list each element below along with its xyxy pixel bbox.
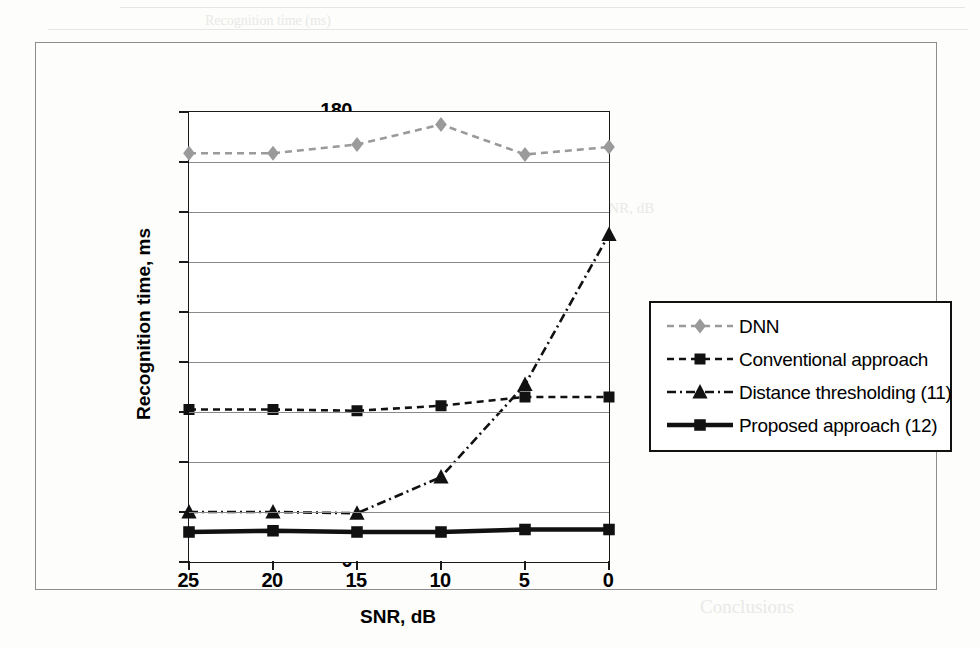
y-tick-mark (179, 311, 188, 313)
square-marker (695, 354, 706, 365)
diamond-marker (183, 146, 195, 161)
gridline (189, 412, 609, 413)
legend-marker-sample (663, 314, 737, 338)
diamond-marker (694, 319, 706, 334)
gridline (189, 512, 609, 513)
legend-label: Distance thresholding (11) (739, 383, 952, 402)
square-marker (184, 404, 195, 415)
x-tick-mark (608, 561, 610, 570)
square-marker (268, 404, 279, 415)
square-marker (604, 392, 615, 403)
y-tick-mark (179, 561, 188, 563)
gridline (189, 312, 609, 313)
bleed-rule-top (120, 7, 965, 8)
diamond-marker (267, 146, 279, 161)
square-icon (663, 347, 737, 371)
series-layer (189, 112, 609, 562)
x-tick-label: 20 (242, 570, 302, 590)
y-tick-mark (179, 361, 188, 363)
x-tick-label: 5 (494, 570, 554, 590)
square-marker (351, 526, 363, 538)
gridline (189, 262, 609, 263)
y-tick-mark (179, 461, 188, 463)
figure-frame: Recognition time, ms 0204060801001201401… (35, 42, 937, 590)
square-icon (663, 413, 737, 437)
y-tick-mark (179, 111, 188, 113)
series-3 (181, 227, 616, 520)
legend-marker-sample (663, 380, 737, 404)
square-marker (603, 524, 615, 536)
square-marker (267, 525, 279, 537)
diamond-marker (519, 147, 531, 162)
x-axis-title: SNR, dB (188, 606, 608, 628)
triangle-marker (517, 377, 532, 391)
series-1 (183, 117, 615, 162)
square-marker (436, 400, 447, 411)
x-tick-label: 10 (410, 570, 470, 590)
diamond-icon (663, 314, 737, 338)
chart-legend: DNNConventional approachDistance thresho… (649, 301, 952, 452)
y-axis-title: Recognition time, ms (133, 174, 155, 474)
legend-item[interactable]: DNN (663, 311, 779, 341)
legend-item[interactable]: Distance thresholding (11) (663, 377, 952, 407)
legend-marker-sample (663, 413, 737, 437)
bleed-rule-top2 (48, 29, 968, 30)
square-marker (352, 405, 363, 416)
square-marker (435, 526, 447, 538)
bleed-text-bottom: Conclusions (700, 596, 794, 618)
diamond-marker (435, 117, 447, 132)
x-tick-mark (524, 561, 526, 570)
x-tick-mark (356, 561, 358, 570)
gridline (189, 462, 609, 463)
legend-label: Proposed approach (12) (739, 416, 937, 435)
x-tick-label: 0 (578, 570, 638, 590)
series-4 (183, 524, 615, 538)
series-line (189, 125, 609, 155)
x-tick-label: 25 (158, 570, 218, 590)
y-tick-mark (179, 211, 188, 213)
legend-marker-sample (663, 347, 737, 371)
y-tick-mark (179, 161, 188, 163)
diamond-marker (603, 140, 615, 155)
series-line (189, 235, 609, 514)
square-marker (519, 524, 531, 536)
x-tick-mark (272, 561, 274, 570)
gridline (189, 212, 609, 213)
triangle-marker (601, 227, 616, 241)
square-marker (183, 526, 195, 538)
x-tick-label: 15 (326, 570, 386, 590)
square-marker (694, 419, 706, 431)
legend-item[interactable]: Proposed approach (12) (663, 410, 937, 440)
gridline (189, 362, 609, 363)
legend-label: Conventional approach (739, 350, 928, 369)
plot-area (188, 111, 610, 563)
triangle-icon (663, 380, 737, 404)
x-tick-mark (440, 561, 442, 570)
series-line (189, 397, 609, 411)
diamond-marker (351, 137, 363, 152)
series-line (189, 530, 609, 533)
y-tick-mark (179, 261, 188, 263)
legend-label: DNN (739, 317, 779, 336)
gridline (189, 162, 609, 163)
square-marker (520, 392, 531, 403)
bleed-text-header: Recognition time (ms) (205, 13, 331, 29)
x-tick-mark (188, 561, 190, 570)
legend-item[interactable]: Conventional approach (663, 344, 928, 374)
